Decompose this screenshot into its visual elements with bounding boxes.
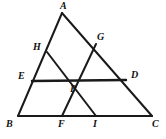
side-AC [62, 13, 152, 116]
vertex-label-P: P [70, 84, 76, 94]
vertex-label-C: C [152, 119, 159, 129]
vertex-label-E: E [18, 71, 25, 81]
vertex-label-H: H [33, 42, 41, 52]
vertex-label-G: G [97, 32, 104, 42]
geometry-figure: A B C D E F G H I P [0, 0, 166, 139]
vertex-label-B: B [6, 119, 13, 129]
vertex-label-I: I [93, 119, 97, 129]
segment-group [18, 13, 152, 116]
vertex-label-A: A [60, 1, 67, 11]
vertex-label-D: D [131, 70, 138, 80]
transversal-ED [32, 80, 126, 81]
vertex-label-F: F [58, 119, 65, 129]
